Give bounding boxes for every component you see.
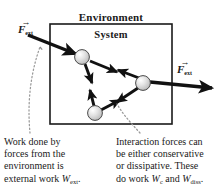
caption-right-period: . xyxy=(201,173,204,184)
caption-right-line-3: or dissipative. These xyxy=(116,160,222,172)
w-ext-symbol: W xyxy=(62,173,70,184)
leader-left xyxy=(29,47,40,133)
caption-right-conjunction: and xyxy=(163,173,182,184)
external-work-caption: Work done by forces from the environment… xyxy=(4,136,108,186)
w-diss-subscript: diss xyxy=(191,178,201,185)
caption-left-line-2: forces from the xyxy=(4,148,108,160)
particle-1 xyxy=(75,50,90,65)
figure-root: Environment System → Fext → Fext Work do… xyxy=(0,0,222,192)
w-ext-subscript: ext xyxy=(70,178,78,185)
w-diss-symbol: W xyxy=(182,173,190,184)
caption-left-line-3: environment is xyxy=(4,160,108,172)
system-label: System xyxy=(50,30,172,41)
caption-left-line-4: external work Wext. xyxy=(4,173,108,186)
f-ext-right-label: → Fext xyxy=(177,60,192,75)
caption-right-line-4-text: do work xyxy=(116,173,152,184)
environment-label: Environment xyxy=(0,12,222,23)
particle-2 xyxy=(136,76,151,91)
caption-left-line-4-text: external work xyxy=(4,173,62,184)
caption-right-line-1: Interaction forces can xyxy=(116,136,222,148)
f-ext-left-label: → Fext xyxy=(18,20,33,35)
particle-3 xyxy=(88,106,103,121)
caption-left-line-1: Work done by xyxy=(4,136,108,148)
leader-left-tick xyxy=(40,47,42,50)
f-ext-left-subscript: ext xyxy=(25,30,33,36)
caption-right-line-4: do work Wc and Wdiss. xyxy=(116,173,222,186)
w-c-subscript: c xyxy=(160,178,163,185)
f-ext-right-subscript: ext xyxy=(184,70,192,76)
w-c-symbol: W xyxy=(152,173,160,184)
caption-left-period: . xyxy=(78,173,81,184)
caption-right-line-2: be either conservative xyxy=(116,148,222,160)
interaction-work-caption: Interaction forces can be either conserv… xyxy=(116,136,222,186)
